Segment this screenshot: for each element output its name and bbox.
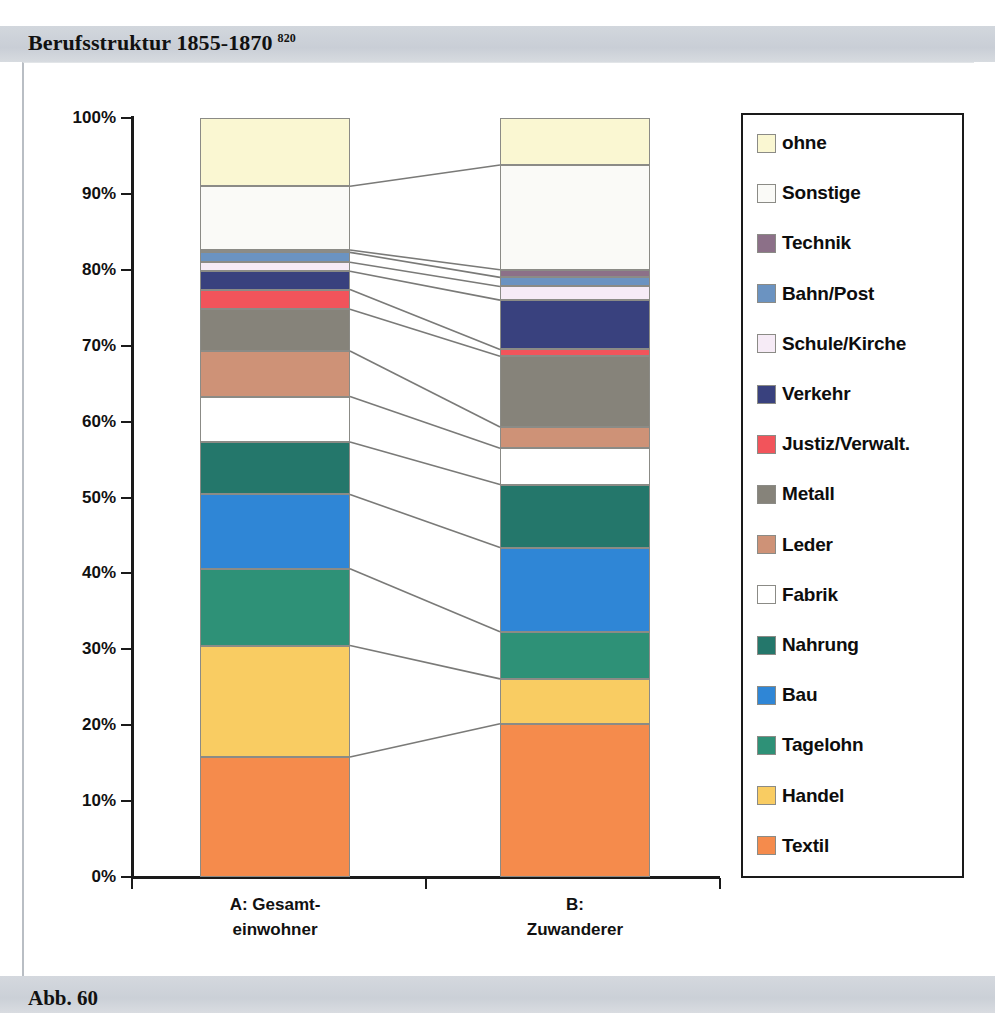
legend-swatch-icon bbox=[757, 786, 776, 805]
bar-segment[interactable] bbox=[200, 351, 350, 397]
y-axis-tick-label: 20% bbox=[48, 716, 116, 733]
legend-label: Bau bbox=[782, 684, 817, 706]
y-axis-tick bbox=[121, 269, 132, 271]
y-axis-tick-label: 50% bbox=[48, 489, 116, 506]
bar-segment[interactable] bbox=[500, 427, 650, 448]
legend-item-ohne[interactable]: ohne bbox=[757, 132, 827, 154]
legend-swatch-icon bbox=[757, 184, 776, 203]
y-axis-tick bbox=[121, 421, 132, 423]
y-axis-tick bbox=[121, 497, 132, 499]
x-axis-tick bbox=[719, 878, 721, 889]
figure-caption: Abb. 60 bbox=[28, 986, 98, 1011]
bar-segment[interactable] bbox=[200, 569, 350, 646]
bar-segment[interactable] bbox=[500, 349, 650, 356]
legend-swatch-icon bbox=[757, 736, 776, 755]
x-axis-category-label-line1: A: Gesamt- bbox=[155, 893, 395, 918]
bar-segment[interactable] bbox=[200, 271, 350, 289]
bar-segment[interactable] bbox=[500, 632, 650, 679]
legend-swatch-icon bbox=[757, 636, 776, 655]
legend-swatch-icon bbox=[757, 334, 776, 353]
bar-segment[interactable] bbox=[200, 646, 350, 758]
y-axis-tick-label: 80% bbox=[48, 261, 116, 278]
bar-segment[interactable] bbox=[200, 186, 350, 250]
bar-segment[interactable] bbox=[200, 494, 350, 568]
bar-segment[interactable] bbox=[500, 277, 650, 286]
y-axis-tick bbox=[121, 724, 132, 726]
legend-item-schule-kirche[interactable]: Schule/Kirche bbox=[757, 333, 906, 355]
legend-item-verkehr[interactable]: Verkehr bbox=[757, 383, 850, 405]
legend-swatch-icon bbox=[757, 234, 776, 253]
legend-swatch-icon bbox=[757, 385, 776, 404]
y-axis-tick bbox=[121, 345, 132, 347]
legend-item-textil[interactable]: Textil bbox=[757, 835, 829, 857]
legend-label: Technik bbox=[782, 232, 851, 254]
bar-segment[interactable] bbox=[500, 356, 650, 427]
bar-segment[interactable] bbox=[500, 485, 650, 548]
bar-segment[interactable] bbox=[200, 262, 350, 271]
bar-segment[interactable] bbox=[500, 548, 650, 632]
legend-label: Schule/Kirche bbox=[782, 333, 906, 355]
footer-band bbox=[0, 976, 995, 1013]
bar-segment[interactable] bbox=[200, 309, 350, 351]
bar-segment[interactable] bbox=[200, 118, 350, 186]
legend-item-bahn-post[interactable]: Bahn/Post bbox=[757, 283, 874, 305]
legend-swatch-icon bbox=[757, 134, 776, 153]
x-axis-category-label-line1: B: bbox=[455, 893, 695, 918]
legend-label: Textil bbox=[782, 835, 829, 857]
bar-segment[interactable] bbox=[500, 286, 650, 300]
legend-label: Tagelohn bbox=[782, 734, 863, 756]
bar-segment[interactable] bbox=[500, 300, 650, 349]
y-axis-tick-label: 30% bbox=[48, 640, 116, 657]
y-axis-tick-label: 10% bbox=[48, 792, 116, 809]
bar-segment[interactable] bbox=[200, 250, 350, 252]
bar-segment[interactable] bbox=[500, 724, 650, 877]
legend-swatch-icon bbox=[757, 836, 776, 855]
bar-segment[interactable] bbox=[500, 165, 650, 270]
legend-item-justiz-verwalt[interactable]: Justiz/Verwalt. bbox=[757, 433, 910, 455]
bar-segment[interactable] bbox=[500, 679, 650, 724]
legend-label: ohne bbox=[782, 132, 827, 154]
legend-swatch-icon bbox=[757, 284, 776, 303]
page-title-text: Berufsstruktur 1855-1870 bbox=[28, 30, 273, 55]
bar-segment[interactable] bbox=[200, 757, 350, 877]
legend-label: Nahrung bbox=[782, 634, 859, 656]
y-axis-tick bbox=[121, 800, 132, 802]
bar-segment[interactable] bbox=[200, 397, 350, 443]
stacked-bar-a[interactable] bbox=[200, 118, 350, 877]
x-axis-tick bbox=[131, 878, 133, 889]
legend-item-technik[interactable]: Technik bbox=[757, 232, 851, 254]
y-axis-tick-label: 90% bbox=[48, 185, 116, 202]
legend-item-fabrik[interactable]: Fabrik bbox=[757, 584, 838, 606]
y-axis-tick bbox=[121, 572, 132, 574]
legend-item-handel[interactable]: Handel bbox=[757, 785, 844, 807]
plot-area bbox=[132, 118, 718, 877]
legend-swatch-icon bbox=[757, 485, 776, 504]
legend-item-tagelohn[interactable]: Tagelohn bbox=[757, 734, 863, 756]
bar-segment[interactable] bbox=[500, 448, 650, 484]
legend-item-bau[interactable]: Bau bbox=[757, 684, 817, 706]
bar-segment[interactable] bbox=[500, 270, 650, 278]
legend-label: Justiz/Verwalt. bbox=[782, 433, 910, 455]
bar-segment[interactable] bbox=[200, 290, 350, 310]
bar-segment[interactable] bbox=[200, 252, 350, 262]
page-title: Berufsstruktur 1855-1870820 bbox=[28, 30, 296, 56]
legend-label: Verkehr bbox=[782, 383, 850, 405]
y-axis-tick-label: 70% bbox=[48, 337, 116, 354]
legend-label: Fabrik bbox=[782, 584, 838, 606]
legend-swatch-icon bbox=[757, 585, 776, 604]
y-axis-tick-label: 0% bbox=[48, 868, 116, 885]
y-axis-tick-label: 100% bbox=[48, 109, 116, 126]
legend-item-metall[interactable]: Metall bbox=[757, 483, 835, 505]
bar-segment[interactable] bbox=[200, 442, 350, 494]
legend-item-sonstige[interactable]: Sonstige bbox=[757, 182, 861, 204]
y-axis-tick bbox=[121, 193, 132, 195]
bar-segment[interactable] bbox=[500, 118, 650, 165]
legend-item-nahrung[interactable]: Nahrung bbox=[757, 634, 859, 656]
y-axis-tick bbox=[121, 117, 132, 119]
legend-label: Metall bbox=[782, 483, 835, 505]
chart-legend: ohneSonstigeTechnikBahn/PostSchule/Kirch… bbox=[741, 113, 964, 878]
legend-item-leder[interactable]: Leder bbox=[757, 534, 833, 556]
legend-label: Sonstige bbox=[782, 182, 861, 204]
y-axis-tick bbox=[121, 648, 132, 650]
stacked-bar-b[interactable] bbox=[500, 118, 650, 877]
